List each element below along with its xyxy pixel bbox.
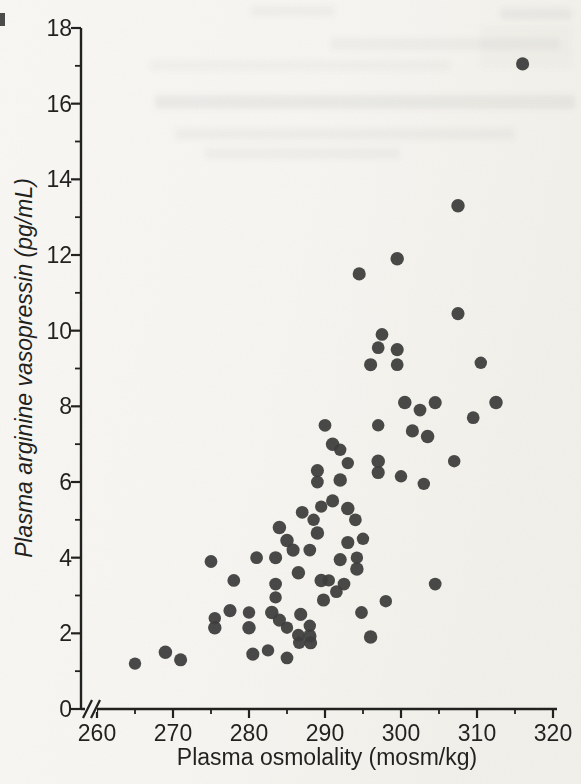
scanned-textbook-page: 260270280290300310320 024681012141618 Pl… [0, 0, 581, 784]
scatter-figure: 260270280290300310320 024681012141618 Pl… [0, 0, 581, 784]
paper-texture [0, 0, 581, 784]
